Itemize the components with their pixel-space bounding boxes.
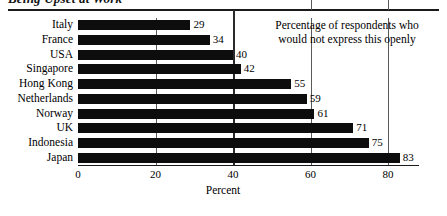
category-label: Indonesia — [28, 136, 73, 148]
bar-value-label: 71 — [356, 121, 367, 133]
bar-row: UK71 — [78, 123, 419, 133]
bar-value-label: 29 — [193, 18, 204, 30]
x-axis-label: Percent — [206, 184, 240, 196]
bar-value-label: 75 — [372, 136, 383, 148]
x-tick-label: 80 — [383, 168, 394, 181]
bar — [78, 109, 314, 119]
bar-value-label: 59 — [310, 92, 321, 104]
gridline-upper-80 — [388, 0, 389, 10]
category-label: Japan — [47, 151, 73, 163]
bar-value-label: 61 — [317, 107, 328, 119]
category-label: UK — [56, 121, 73, 133]
category-label: Italy — [52, 18, 73, 30]
gridline-upper-60 — [311, 0, 312, 10]
x-axis-line — [78, 165, 419, 166]
bar — [78, 35, 210, 45]
bar-row: Singapore42 — [78, 64, 419, 74]
x-tick-label: 60 — [305, 168, 316, 181]
chart-figure: Being Upset at Work Italy29France34USA40… — [0, 0, 447, 216]
category-label: USA — [50, 48, 73, 60]
bar — [78, 138, 369, 148]
category-label: Singapore — [26, 62, 73, 74]
bar — [78, 79, 291, 89]
annotation-line-2: would not express this openly — [252, 32, 442, 46]
x-tick-label: 20 — [150, 168, 161, 181]
x-tick-label: 40 — [228, 168, 239, 181]
bar — [78, 20, 190, 30]
bar-row: Indonesia75 — [78, 138, 419, 148]
bar-row: Norway61 — [78, 109, 419, 119]
category-label: Hong Kong — [19, 77, 73, 89]
bar-value-label: 40 — [236, 48, 247, 60]
title-divider — [8, 9, 439, 11]
bar — [78, 50, 233, 60]
bar — [78, 153, 400, 163]
bar-row: USA40 — [78, 50, 419, 60]
bar-row: Hong Kong55 — [78, 79, 419, 89]
chart-title: Being Upset at Work — [8, 0, 122, 7]
bar-value-label: 42 — [244, 62, 255, 74]
chart-annotation: Percentage of respondents who would not … — [252, 18, 442, 46]
category-label: Norway — [36, 107, 73, 119]
bar — [78, 123, 353, 133]
annotation-line-1: Percentage of respondents who — [252, 18, 442, 32]
bar-row: Japan83 — [78, 153, 419, 163]
bar — [78, 64, 241, 74]
bar-row: Netherlands59 — [78, 94, 419, 104]
category-label: France — [42, 33, 73, 45]
category-label: Netherlands — [17, 92, 73, 104]
bar-value-label: 34 — [213, 33, 224, 45]
x-tick-label: 0 — [75, 168, 81, 181]
bar-value-label: 55 — [294, 77, 305, 89]
bar-value-label: 83 — [403, 151, 414, 163]
bar — [78, 94, 307, 104]
